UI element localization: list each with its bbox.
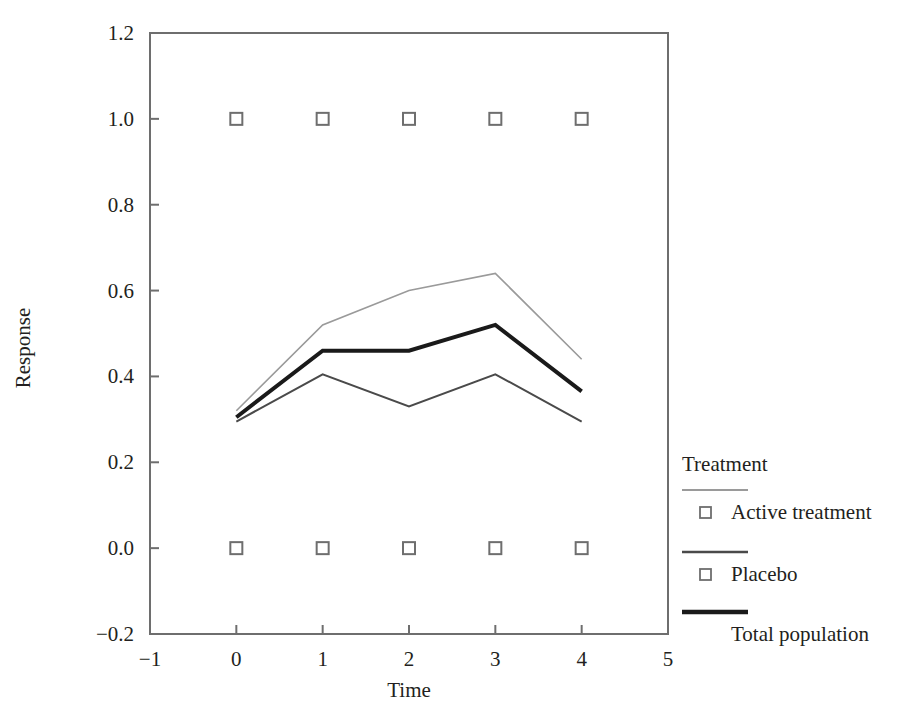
legend-title: Treatment [682, 452, 768, 476]
x-axis-title: Time [387, 678, 431, 702]
chart-legend: Treatment Active treatmentPlaceboTotal p… [682, 452, 872, 646]
x-tick-label: 0 [231, 647, 242, 671]
legend-entry-label: Active treatment [731, 500, 872, 524]
y-tick-label: 0.8 [108, 193, 134, 217]
x-axis-tick-labels: −1012345 [139, 647, 673, 671]
chart-figure: 1.21.00.80.60.40.20.0−0.2 −1012345 Respo… [0, 0, 897, 718]
plot-frame [150, 33, 668, 634]
x-tick-label: 1 [317, 647, 328, 671]
legend-open-square-marker [700, 507, 711, 518]
legend-entry-label: Total population [731, 622, 869, 646]
y-axis-tick-labels: 1.21.00.80.60.40.20.0−0.2 [96, 21, 135, 646]
legend-entries: Active treatmentPlaceboTotal population [682, 490, 872, 646]
x-tick-label: 3 [490, 647, 501, 671]
y-axis-title: Response [11, 308, 35, 389]
x-tick-label: −1 [139, 647, 161, 671]
line-chart-canvas: 1.21.00.80.60.40.20.0−0.2 −1012345 Respo… [0, 0, 897, 718]
y-tick-label: 0.2 [108, 450, 134, 474]
y-tick-label: 0.4 [108, 364, 135, 388]
y-tick-label: 1.0 [108, 107, 134, 131]
y-tick-label: 0.0 [108, 536, 134, 560]
x-tick-label: 4 [576, 647, 587, 671]
x-tick-label: 5 [663, 647, 674, 671]
y-tick-label: −0.2 [96, 622, 134, 646]
legend-entry-label: Placebo [731, 562, 797, 586]
y-tick-label: 1.2 [108, 21, 134, 45]
x-tick-label: 2 [404, 647, 415, 671]
legend-open-square-marker [700, 569, 711, 580]
y-tick-label: 0.6 [108, 279, 134, 303]
